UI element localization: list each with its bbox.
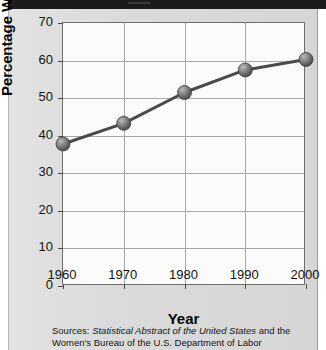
y-axis-tick-label: 70 [13, 15, 53, 28]
top-banner-bar [8, 0, 326, 9]
y-axis-tick [58, 211, 63, 212]
y-axis-tick-label: 40 [13, 128, 53, 141]
sources-note: Sources: Statistical Abstract of the Uni… [52, 325, 314, 348]
plot-area [62, 22, 305, 285]
data-point-marker [299, 52, 313, 66]
y-axis-tick [58, 98, 63, 99]
y-axis-tick-label: 60 [13, 53, 53, 66]
data-point-marker [178, 86, 192, 100]
data-series-line [63, 23, 306, 286]
y-axis-tick-label: 30 [13, 165, 53, 178]
x-axis-tick-label: 1990 [214, 268, 274, 281]
x-axis-tick [185, 284, 186, 289]
x-axis-tick [306, 284, 307, 289]
x-axis-tick-label: 1960 [32, 268, 92, 281]
x-axis-tick [63, 284, 64, 289]
y-axis-tick [58, 61, 63, 62]
y-axis-tick [58, 173, 63, 174]
y-axis-tick-label: 50 [13, 90, 53, 103]
y-axis-tick [58, 248, 63, 249]
x-axis-tick-label: 1980 [154, 268, 214, 281]
sources-prefix: Sources: [52, 325, 92, 336]
data-point-marker [238, 63, 252, 77]
top-banner-notch [128, 2, 150, 4]
y-axis-tick-label: 20 [13, 203, 53, 216]
chart-figure: Percentage Working 010203040506070 19601… [0, 0, 326, 350]
y-axis-tick-label: 10 [13, 240, 53, 253]
y-axis-tick [58, 136, 63, 137]
x-axis-tick-label: 2000 [275, 268, 326, 281]
data-point-marker [56, 137, 70, 151]
x-axis-tick [245, 284, 246, 289]
sources-italic-title: Statistical Abstract of the United State… [92, 325, 256, 336]
y-axis-tick [58, 23, 63, 24]
x-axis-tick-label: 1970 [93, 268, 153, 281]
data-point-marker [117, 116, 131, 130]
series-line [63, 59, 306, 144]
x-axis-tick [124, 284, 125, 289]
